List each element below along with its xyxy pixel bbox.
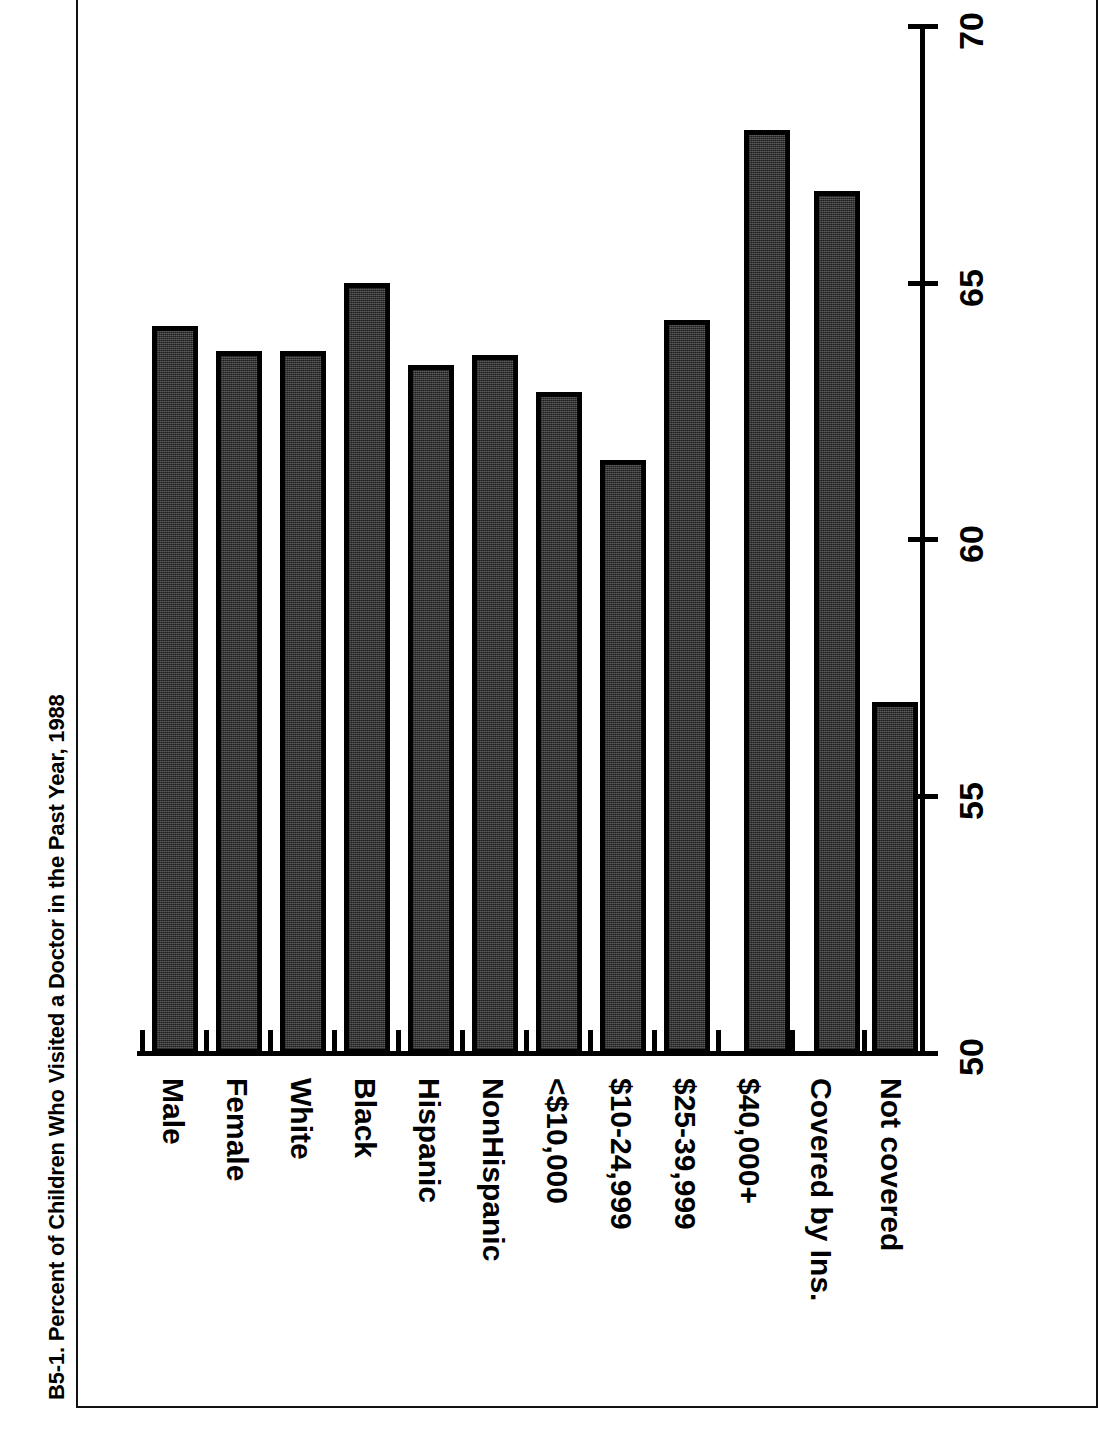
bar-income-10-24k [600, 460, 646, 1054]
category-tick-6 [524, 1030, 529, 1056]
category-tick-7 [588, 1030, 593, 1056]
category-label-income-under-10k: <$10,000 [540, 1078, 574, 1204]
value-tick-label-60: 60 [952, 443, 991, 563]
category-tick-9 [716, 1030, 721, 1056]
value-tick-65 [908, 281, 938, 286]
category-label-black: Black [348, 1078, 382, 1158]
value-tick-70 [908, 24, 938, 29]
bar-female [216, 351, 262, 1054]
category-label-not-covered: Not covered [874, 1078, 908, 1251]
category-tick-0 [140, 1030, 145, 1056]
category-label-nonhispanic: NonHispanic [476, 1078, 510, 1261]
category-tick-10 [790, 1030, 795, 1056]
bar-black [344, 283, 390, 1054]
bar-not-covered [872, 702, 918, 1054]
category-label-covered-by-ins: Covered by Ins. [804, 1078, 838, 1301]
bar-hispanic [408, 365, 454, 1054]
bar-male [152, 326, 198, 1054]
bar-white [280, 351, 326, 1054]
value-tick-label-65: 65 [952, 187, 991, 307]
category-label-hispanic: Hispanic [412, 1078, 446, 1203]
category-label-female: Female [220, 1078, 254, 1181]
category-tick-1 [204, 1030, 209, 1056]
value-tick-label-55: 55 [952, 700, 991, 820]
bar-nonhispanic [472, 355, 518, 1054]
category-tick-2 [268, 1030, 273, 1056]
bar-covered-by-ins [814, 191, 860, 1054]
category-label-income-25-39k: $25-39,999 [668, 1078, 702, 1230]
value-tick-label-50: 50 [952, 956, 991, 1076]
bar-chart-plot-area: 50 55 60 65 70 Male Female White Black H… [0, 0, 1101, 1450]
value-tick-label-70: 70 [952, 0, 991, 50]
category-label-income-40k-plus: $40,000+ [732, 1078, 766, 1204]
category-tick-11 [862, 1030, 867, 1056]
category-tick-8 [652, 1030, 657, 1056]
category-tick-5 [460, 1030, 465, 1056]
value-tick-60 [908, 537, 938, 542]
bar-income-under-10k [536, 392, 582, 1054]
bar-income-40k-plus [744, 130, 790, 1054]
category-tick-3 [332, 1030, 337, 1056]
category-tick-4 [396, 1030, 401, 1056]
bar-income-25-39k [664, 320, 710, 1054]
category-label-income-10-24k: $10-24,999 [604, 1078, 638, 1230]
category-label-male: Male [156, 1078, 190, 1145]
category-label-white: White [284, 1078, 318, 1160]
